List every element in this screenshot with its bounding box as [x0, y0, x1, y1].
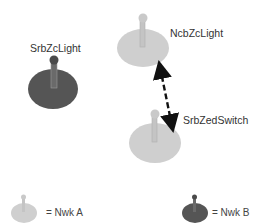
node-label-ncbzclight: NcbZcLight	[170, 27, 223, 39]
node-ncbzclight-icon	[117, 14, 169, 68]
legend-nwk-b-icon	[182, 195, 208, 224]
link-arrow	[160, 67, 172, 126]
legend-nwk-a-icon	[11, 195, 37, 224]
node-srbzclight-icon	[28, 56, 78, 110]
network-diagram	[0, 0, 263, 224]
legend-nwk-a-label: = Nwk A	[46, 207, 83, 218]
node-label-srbzedswitch: SrbZedSwitch	[183, 114, 248, 126]
node-label-srbzclight: SrbZcLight	[30, 42, 81, 54]
node-srbzedswitch-icon	[129, 110, 181, 164]
legend-nwk-b-label: = Nwk B	[212, 207, 250, 218]
